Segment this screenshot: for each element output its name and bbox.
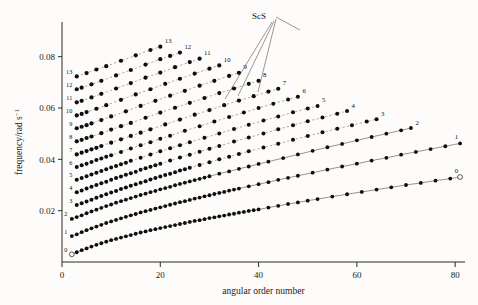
data-point: [232, 212, 236, 216]
data-point: [212, 192, 216, 196]
data-point: [296, 95, 300, 99]
data-point: [227, 169, 231, 173]
data-point: [237, 152, 241, 156]
data-point: [114, 218, 118, 222]
data-point: [139, 156, 143, 160]
data-point: [227, 115, 231, 119]
data-point: [222, 103, 226, 107]
data-point: [276, 114, 280, 118]
data-point: [89, 95, 93, 99]
dispersion-chart: 0.020.040.060.08020406080angular order n…: [0, 0, 478, 305]
branch-left-label: 10: [66, 107, 72, 114]
scs-label: ScS: [252, 11, 266, 21]
data-point: [89, 82, 93, 86]
branch-end-label: 8: [263, 71, 267, 78]
data-point: [208, 193, 212, 197]
data-point: [104, 221, 108, 225]
data-point: [163, 186, 167, 190]
data-point: [119, 236, 123, 240]
data-point: [173, 106, 177, 110]
data-point: [144, 179, 148, 183]
data-point: [119, 199, 123, 203]
data-point: [222, 190, 226, 194]
data-point: [139, 193, 143, 197]
data-point: [129, 68, 133, 72]
data-point: [330, 195, 334, 199]
data-point: [75, 165, 79, 169]
data-point: [85, 199, 89, 203]
data-point: [94, 146, 98, 150]
data-point: [355, 138, 359, 142]
data-point: [99, 241, 103, 245]
y-axis-tick-label: 0.06: [39, 103, 55, 113]
data-point: [203, 194, 207, 198]
data-point: [458, 142, 462, 146]
data-point: [119, 175, 123, 179]
data-point: [247, 123, 251, 127]
data-point: [188, 220, 192, 224]
data-point: [345, 192, 349, 196]
data-point: [80, 86, 84, 90]
data-point: [114, 189, 118, 193]
data-point: [188, 180, 192, 184]
data-point: [193, 219, 197, 223]
data-point: [109, 127, 113, 131]
data-point: [207, 108, 211, 112]
data-point: [109, 114, 113, 118]
data-point: [80, 112, 84, 116]
data-point: [168, 172, 172, 176]
data-point: [75, 190, 79, 194]
data-point: [370, 159, 374, 163]
data-point: [262, 119, 266, 123]
data-point: [144, 166, 148, 170]
data-point: [148, 87, 152, 91]
data-point: [75, 100, 79, 104]
data-point: [208, 174, 212, 178]
data-point: [129, 171, 133, 175]
data-point: [419, 181, 423, 185]
data-point: [95, 243, 99, 247]
data-point: [144, 192, 148, 196]
data-point: [89, 185, 93, 189]
data-point: [443, 144, 447, 148]
data-point: [109, 153, 113, 157]
data-point: [217, 144, 221, 148]
data-point: [276, 178, 280, 182]
data-point: [80, 99, 84, 103]
data-point: [158, 137, 162, 141]
data-point: [168, 159, 172, 163]
data-point: [168, 134, 172, 138]
data-point: [271, 102, 275, 106]
data-point: [129, 159, 133, 163]
data-point: [94, 171, 98, 175]
data-point: [94, 183, 98, 187]
scs-leader-line: [225, 22, 272, 99]
data-point: [75, 74, 79, 78]
data-point: [414, 150, 418, 154]
branch-end-label: 2: [415, 119, 419, 126]
data-point: [227, 155, 231, 159]
data-point: [168, 54, 172, 58]
x-axis-tick-label: 0: [60, 270, 65, 280]
data-point: [85, 247, 89, 251]
data-point: [129, 134, 133, 138]
branch-curve: [72, 143, 460, 236]
data-point: [178, 200, 182, 204]
data-point: [119, 187, 123, 191]
data-point: [153, 207, 157, 211]
data-point: [99, 206, 103, 210]
data-point: [266, 89, 270, 93]
data-point: [188, 101, 192, 105]
data-point: [119, 150, 123, 154]
branch-left-label: 1: [64, 228, 67, 235]
data-point: [143, 63, 147, 67]
data-point: [85, 162, 89, 166]
data-point: [119, 216, 123, 220]
data-point: [188, 198, 192, 202]
data-point: [85, 174, 89, 178]
data-point: [311, 171, 315, 175]
data-point: [217, 214, 221, 218]
data-point: [124, 186, 128, 190]
data-point: [286, 202, 290, 206]
data-point: [247, 149, 251, 153]
